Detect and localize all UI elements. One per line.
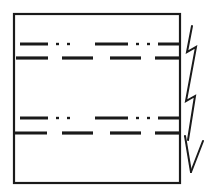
sketch-canvas: Hand-drawn sketch of a rectangular regio… bbox=[0, 0, 214, 192]
canvas-background bbox=[0, 0, 214, 192]
drawing-surface bbox=[0, 0, 214, 192]
